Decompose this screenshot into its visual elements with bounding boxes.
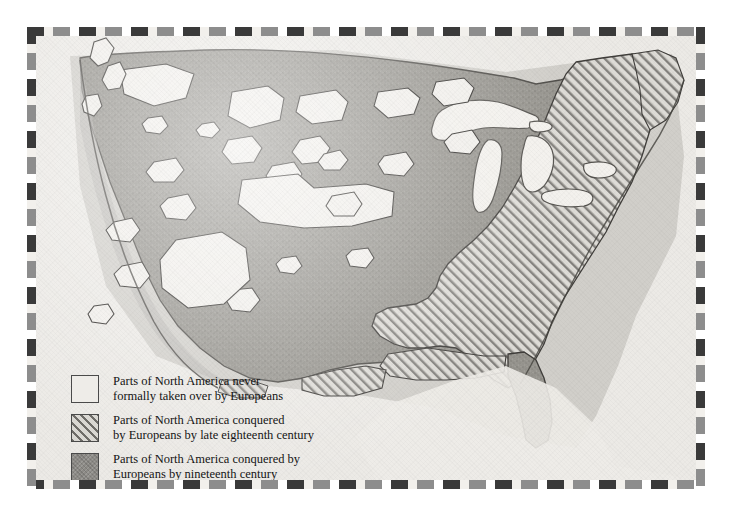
legend-item-never-taken: Parts of North America never formally ta… — [71, 374, 371, 404]
legend-item-nineteenth-century: Parts of North America conquered by Euro… — [71, 452, 371, 480]
lake-ontario — [584, 162, 617, 178]
map-plate: Parts of North America never formally ta… — [36, 36, 696, 480]
legend-label-never-taken: Parts of North America never formally ta… — [113, 374, 283, 404]
frame-border-left — [27, 27, 36, 489]
map-page: Parts of North America never formally ta… — [0, 0, 732, 525]
frame-border-right — [696, 27, 705, 489]
decorative-map-frame: Parts of North America never formally ta… — [27, 27, 705, 489]
legend-label-late-eighteenth-century: Parts of North America conquered by Euro… — [113, 413, 314, 443]
georgian-bay — [529, 121, 552, 132]
legend-swatch-nineteenth-century — [71, 453, 99, 480]
map-legend: Parts of North America never formally ta… — [71, 374, 371, 480]
legend-swatch-late-eighteenth-century — [71, 414, 99, 442]
frame-border-bottom — [27, 480, 705, 489]
legend-label-nineteenth-century: Parts of North America conquered by Euro… — [113, 452, 300, 480]
frame-border-top — [27, 27, 705, 36]
legend-item-late-eighteenth-century: Parts of North America conquered by Euro… — [71, 413, 371, 443]
legend-swatch-never-taken — [71, 375, 99, 403]
